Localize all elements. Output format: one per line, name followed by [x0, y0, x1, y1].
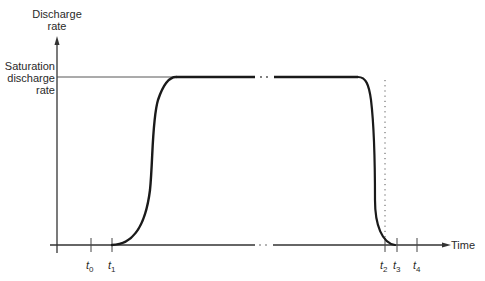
plateau-break-dot — [266, 76, 268, 78]
y-axis-arrow-icon — [55, 36, 60, 45]
saturation-label-line3: rate — [0, 84, 55, 96]
tick-label-t2: t2 — [380, 259, 388, 274]
x-axis-label: Time — [451, 239, 475, 251]
saturation-label-line1: Saturation — [0, 60, 55, 72]
tick-label-t4: t4 — [413, 259, 421, 274]
discharge-diagram — [0, 0, 485, 281]
y-axis-label: Discharge rate — [14, 8, 100, 32]
y-axis-label-line2: rate — [14, 20, 100, 32]
saturation-label-line2: discharge — [0, 72, 55, 84]
tick-label-t0: t0 — [86, 259, 94, 274]
tick-label-t3: t3 — [393, 259, 401, 274]
saturation-label: Saturation discharge rate — [0, 60, 55, 96]
y-axis-label-line1: Discharge — [14, 8, 100, 20]
x-axis-arrow-icon — [442, 243, 451, 248]
x-axis-break-dot — [265, 244, 267, 246]
discharge-curve-rise — [112, 77, 176, 245]
tick-label-t1: t1 — [108, 259, 116, 274]
discharge-curve-fall — [358, 77, 395, 245]
plateau-break-dot — [260, 76, 262, 78]
x-axis-break-dot — [259, 244, 261, 246]
